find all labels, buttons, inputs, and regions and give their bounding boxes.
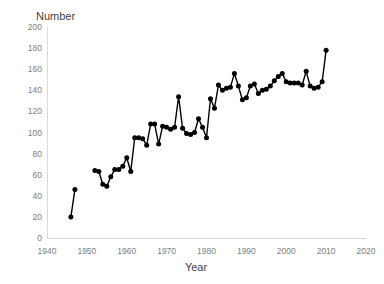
data-point [192,130,197,135]
y-tick-label: 100 [28,128,42,138]
data-point [68,214,73,219]
data-point [272,78,277,83]
data-point [180,126,185,131]
data-point [208,96,213,101]
data-point [108,174,113,179]
data-point [72,187,77,192]
data-point [124,155,129,160]
data-point [228,85,233,90]
data-point [232,71,237,76]
data-point [276,74,281,79]
data-point [156,142,161,147]
data-point [196,116,201,121]
x-tick-label: 2000 [277,246,296,256]
x-tick-label: 2010 [317,246,336,256]
data-point [96,169,101,174]
x-tick-label: 1960 [117,246,136,256]
y-tick-label: 180 [28,43,42,53]
x-tick-label: 1990 [237,246,256,256]
data-point [244,95,249,100]
data-point [120,164,125,169]
data-point [316,85,321,90]
y-tick-label: 80 [33,149,43,159]
data-point [280,71,285,76]
x-tick-label: 1950 [77,246,96,256]
line-chart: Number 020406080100120140160180200 19401… [0,0,384,284]
y-tick-label: 0 [37,233,42,243]
y-tick-label: 40 [33,191,43,201]
data-point [144,143,149,148]
chart-background [0,0,384,284]
y-tick-label: 60 [33,170,43,180]
y-tick-label: 20 [33,212,43,222]
data-point [104,184,109,189]
data-point [204,135,209,140]
y-tick-label: 140 [28,85,42,95]
y-tick-label: 120 [28,106,42,116]
y-axis-title: Number [36,10,75,22]
x-tick-label: 2020 [357,246,376,256]
data-point [236,84,241,89]
data-point [256,91,261,96]
data-point [304,69,309,74]
x-tick-label: 1970 [157,246,176,256]
data-point [172,125,177,130]
data-point [116,167,121,172]
data-point [216,83,221,88]
data-point [252,81,257,86]
data-point [300,83,305,88]
x-axis-title: Year [185,261,208,273]
data-point [320,79,325,84]
data-point [268,84,273,89]
x-tick-label: 1980 [197,246,216,256]
y-tick-label: 200 [28,22,42,32]
data-point [152,122,157,127]
x-axis-tick-labels: 194019501960197019801990200020102020 [38,246,376,256]
x-tick-label: 1940 [38,246,57,256]
chart-container: Number 020406080100120140160180200 19401… [0,0,384,284]
data-point [264,87,269,92]
y-tick-label: 160 [28,64,42,74]
data-point [324,48,329,53]
data-point [128,169,133,174]
data-point [176,94,181,99]
data-point [140,136,145,141]
data-point [212,106,217,111]
data-point [200,125,205,130]
